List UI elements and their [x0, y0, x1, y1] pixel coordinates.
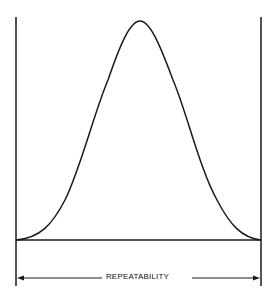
bell-curve-diagram [0, 0, 275, 304]
gaussian-curve [16, 21, 261, 240]
repeatability-label: REPEATABILITY [0, 272, 275, 281]
